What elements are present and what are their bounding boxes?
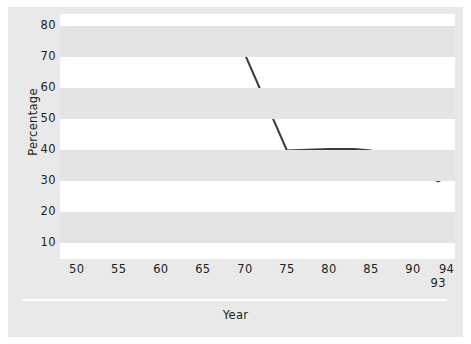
y-axis-tick-label: 20 — [4, 204, 56, 218]
x-axis-title: Year — [0, 308, 471, 322]
y-axis-title: Percentage — [26, 77, 40, 167]
x-axis-tick-label: 65 — [186, 262, 220, 276]
x-axis-tick-label: 85 — [354, 262, 388, 276]
y-axis-tick-label: 10 — [4, 235, 56, 249]
x-axis-tick-labels: 50556065707580859094 — [60, 262, 460, 280]
x-axis-tick-label: 50 — [60, 262, 94, 276]
x-axis-tick-label-93: 93 — [421, 276, 455, 290]
x-axis-tick-label: 90 — [396, 262, 430, 276]
y-axis-tick-label: 80 — [4, 18, 56, 32]
grid-band — [60, 26, 455, 57]
grid-band — [60, 88, 455, 119]
x-axis-tick-label: 94 — [430, 262, 464, 276]
y-axis-tick-label: 70 — [4, 49, 56, 63]
chart-screenshot: 1020304050607080 Percentage 505560657075… — [0, 0, 471, 344]
grid-band — [60, 212, 455, 243]
x-axis-tick-label: 70 — [228, 262, 262, 276]
y-axis-tick-label: 30 — [4, 173, 56, 187]
x-axis-tick-label: 60 — [144, 262, 178, 276]
grid-band — [60, 150, 455, 181]
x-axis-tick-label: 55 — [102, 262, 136, 276]
axis-separator-line — [22, 299, 447, 301]
x-axis-tick-label: 75 — [270, 262, 304, 276]
plot-area — [60, 14, 455, 259]
x-axis-tick-label: 80 — [312, 262, 346, 276]
